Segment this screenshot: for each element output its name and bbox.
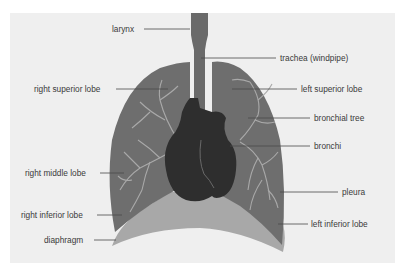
label-trachea: trachea (windpipe) <box>280 53 348 63</box>
label-pleura: pleura <box>342 187 365 197</box>
label-right-inferior-lobe: right inferior lobe <box>21 210 83 220</box>
label-right-middle-lobe: right middle lobe <box>25 168 86 178</box>
label-larynx: larynx <box>112 24 134 34</box>
label-bronchi: bronchi <box>314 141 341 151</box>
label-left-superior-lobe: left superior lobe <box>301 84 362 94</box>
label-right-superior-lobe: right superior lobe <box>34 84 100 94</box>
label-diaphragm: diaphragm <box>44 235 83 245</box>
label-bronchial-tree: bronchial tree <box>314 113 364 123</box>
label-left-inferior-lobe: left inferior lobe <box>311 219 368 229</box>
